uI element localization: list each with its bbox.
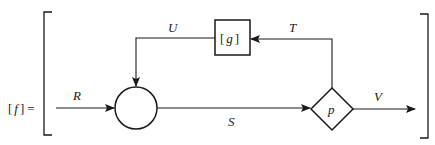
feedback-to-block-edge xyxy=(251,39,332,88)
block-close-bracket: ] xyxy=(235,31,239,46)
equals-sign: = xyxy=(27,101,34,116)
block-node-label: [g] xyxy=(220,31,239,46)
feedback-from-block-label: U xyxy=(168,20,179,35)
input-edge-label: R xyxy=(72,88,81,103)
decision-node-label: p xyxy=(327,102,335,117)
lhs-close-bracket: ] xyxy=(20,101,24,116)
feedback-from-block-edge xyxy=(136,38,215,86)
junction-node xyxy=(115,87,157,129)
feedback-to-block-label: T xyxy=(289,20,297,35)
equation-lhs: [f]= xyxy=(8,101,35,116)
forward-edge-label: S xyxy=(228,114,235,129)
lhs-open-bracket: [ xyxy=(8,101,12,116)
block-symbol: g xyxy=(226,31,233,46)
left-matrix-bracket xyxy=(44,12,52,135)
block-diagram: [f]= R S p V T [g] U xyxy=(0,0,435,145)
right-matrix-bracket xyxy=(420,14,428,138)
output-edge-label: V xyxy=(374,89,384,104)
block-open-bracket: [ xyxy=(220,31,224,46)
svg-text:[f]=: [f]= xyxy=(8,101,35,116)
